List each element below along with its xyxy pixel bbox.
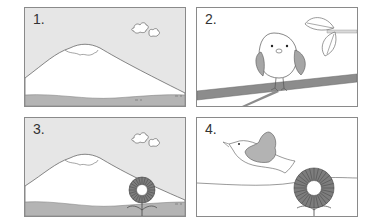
panel-number: 2. <box>205 11 217 27</box>
panel-2: 2. <box>196 7 358 107</box>
panel-4: 4. <box>196 117 358 217</box>
bird-scene <box>197 8 357 106</box>
panel-number: 1. <box>33 11 45 27</box>
panel-1: 1. <box>24 7 186 107</box>
panel-3: 3. <box>24 117 186 217</box>
mountain-flower-scene <box>25 118 185 216</box>
panel-number: 4. <box>205 121 217 137</box>
leaf-twig <box>327 30 357 33</box>
mountain-scene <box>25 8 185 106</box>
panel-number: 3. <box>33 121 45 137</box>
bird-flower-scene <box>197 118 357 216</box>
